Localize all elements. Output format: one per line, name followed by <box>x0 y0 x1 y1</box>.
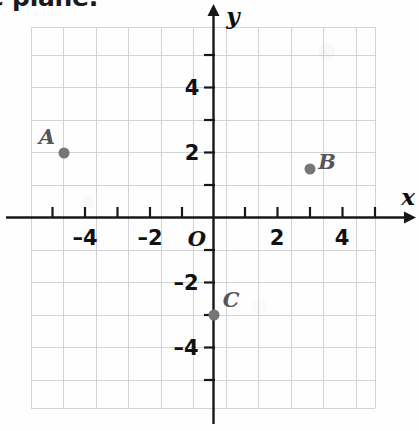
y-axis-label: y <box>226 2 239 29</box>
y-tick-label-4: 4 <box>185 76 200 100</box>
coordinate-plane: x y O –4 –2 2 4 4 2 –2 –4 A B C <box>0 0 419 431</box>
y-axis-arrowhead <box>208 4 220 16</box>
point-label-b: B <box>318 149 336 174</box>
x-tick-label-4: 4 <box>335 226 350 250</box>
x-tick-label-neg4: –4 <box>72 226 97 250</box>
point-label-a: A <box>39 124 55 149</box>
y-tick-label-neg4: –4 <box>173 336 198 360</box>
x-tick-label-2: 2 <box>270 226 285 250</box>
point-label-c: C <box>223 287 240 312</box>
point-dot-c <box>208 310 219 321</box>
axes <box>0 0 419 431</box>
point-dot-a <box>58 147 69 158</box>
x-tick-label-neg2: –2 <box>137 226 162 250</box>
x-axis-label: x <box>401 183 415 210</box>
origin-label: O <box>188 226 206 251</box>
x-axis-arrowhead <box>404 212 416 224</box>
y-tick-label-neg2: –2 <box>173 271 198 295</box>
coordinate-plane-figure: e plane. <box>0 0 419 431</box>
point-dot-b <box>305 164 316 175</box>
y-tick-label-2: 2 <box>185 141 200 165</box>
